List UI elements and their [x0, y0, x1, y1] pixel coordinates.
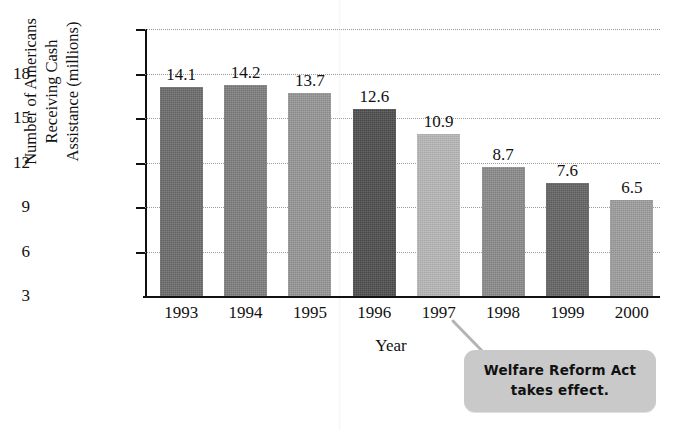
bar-fill — [160, 87, 203, 296]
y-tick-label-6: 6 — [0, 242, 30, 262]
gridline-18 — [145, 29, 660, 30]
bar-fill — [482, 167, 525, 296]
bar-1993 — [160, 87, 203, 296]
y-tick-mark-12 — [136, 118, 145, 120]
bar-fill — [224, 85, 267, 296]
bar-1994 — [224, 85, 267, 296]
annotation-callout: Welfare Reform Act takes effect. — [464, 350, 656, 412]
bar-fill — [417, 134, 460, 296]
bar-1995 — [288, 93, 331, 296]
bar-1998 — [482, 167, 525, 296]
bar-value-1997: 10.9 — [409, 112, 469, 132]
bar-value-1995: 13.7 — [280, 71, 340, 91]
gridline-12 — [145, 118, 660, 119]
bar-value-1999: 7.6 — [537, 161, 597, 181]
y-tick-mark-18 — [136, 29, 145, 31]
chart-canvas: Number of Americans Receiving Cash Assis… — [0, 0, 678, 430]
bar-fill — [353, 109, 396, 296]
bar-value-1996: 12.6 — [344, 87, 404, 107]
x-axis-line — [143, 296, 660, 298]
y-tick-mark-3 — [136, 252, 145, 254]
y-tick-label-3: 3 — [0, 286, 30, 306]
annotation-line-2: takes effect. — [464, 380, 656, 400]
bar-2000 — [610, 200, 653, 296]
bar-value-2000: 6.5 — [602, 178, 662, 198]
x-tick-label-1994: 1994 — [214, 303, 278, 323]
x-tick-label-1996: 1996 — [342, 303, 406, 323]
annotation-line-1: Welfare Reform Act — [464, 360, 656, 380]
y-tick-mark-15 — [136, 74, 145, 76]
y-axis-title-line-3: Assistance (millions) — [62, 0, 83, 227]
bar-1997 — [417, 134, 460, 296]
bar-value-1994: 14.2 — [216, 63, 276, 83]
y-tick-label-15: 15 — [0, 108, 30, 128]
x-tick-label-1998: 1998 — [471, 303, 535, 323]
bar-1999 — [546, 183, 589, 296]
x-tick-label-2000: 2000 — [600, 303, 664, 323]
x-tick-label-1997: 1997 — [407, 303, 471, 323]
y-axis-title-line-2: Receiving Cash — [41, 0, 62, 227]
bar-fill — [288, 93, 331, 296]
y-tick-label-9: 9 — [0, 197, 30, 217]
bar-fill — [546, 183, 589, 296]
y-tick-mark-9 — [136, 163, 145, 165]
y-tick-mark-6 — [136, 207, 145, 209]
bar-fill — [610, 200, 653, 296]
bar-value-1998: 8.7 — [473, 145, 533, 165]
annotation-callout-text: Welfare Reform Act takes effect. — [464, 360, 656, 400]
y-tick-label-12: 12 — [0, 153, 30, 173]
x-tick-label-1993: 1993 — [149, 303, 213, 323]
bar-value-1993: 14.1 — [151, 65, 211, 85]
x-tick-label-1995: 1995 — [278, 303, 342, 323]
bar-1996 — [353, 109, 396, 296]
y-tick-label-18: 18 — [0, 64, 30, 84]
x-tick-label-1999: 1999 — [535, 303, 599, 323]
x-axis-title: Year — [345, 336, 437, 356]
